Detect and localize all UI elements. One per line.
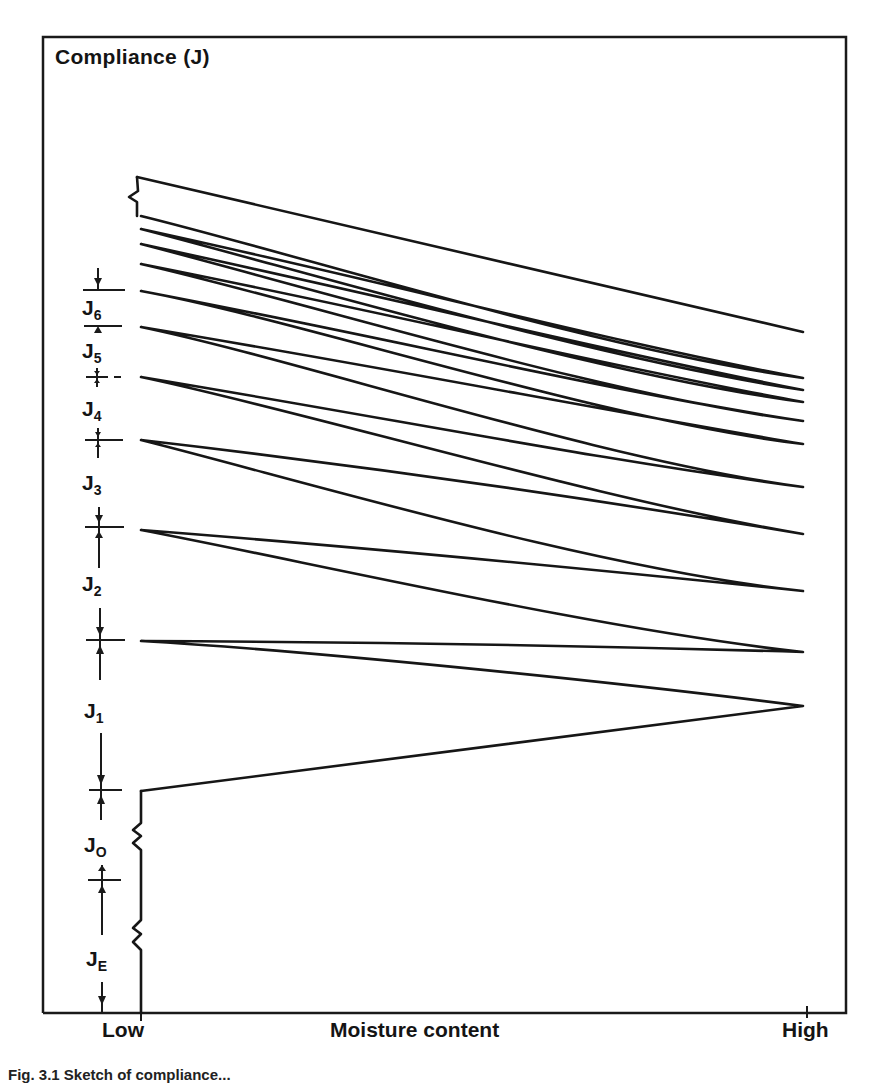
- top-break-path: [129, 177, 138, 216]
- x-tick-label-low: Low: [102, 1018, 144, 1042]
- x-axis-title: Moisture content: [330, 1018, 499, 1042]
- level-label-j6: J6: [82, 297, 101, 322]
- compliance-markers: [83, 268, 125, 1013]
- level-label-j1: J1: [84, 700, 103, 725]
- level-label-j0: JO: [84, 834, 107, 859]
- level-label-je: JE: [86, 948, 107, 973]
- figure-caption: Fig. 3.1 Sketch of compliance...: [8, 1066, 231, 1083]
- level-label-j5: J5: [82, 340, 101, 365]
- level-label-j2: J2: [82, 573, 101, 598]
- y-axis-title: Compliance (J): [55, 45, 210, 69]
- initial-compliance-path: [133, 791, 141, 1013]
- level-label-j3: J3: [82, 472, 101, 497]
- x-tick-label-high: High: [782, 1018, 829, 1042]
- level-label-j4: J4: [82, 398, 101, 423]
- compliance-cycle-path: [141, 216, 803, 791]
